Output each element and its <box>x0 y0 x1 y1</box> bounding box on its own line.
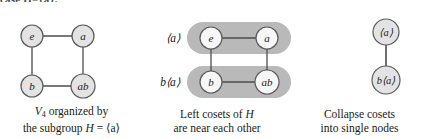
caption-symbol-v: V <box>35 105 42 117</box>
node-ab[interactable]: ab <box>71 74 95 98</box>
node-coset-bH[interactable]: b⟨a⟩ <box>372 66 400 94</box>
node-label-ab: ab <box>78 80 90 92</box>
coset-collapse-figure: case H=⟨a⟩. e a b <box>0 0 428 139</box>
node-label-e: e <box>209 32 214 44</box>
caption-v4-square: V4 organized by the subgroup H = ⟨a⟩ <box>0 105 143 135</box>
caption-symbol-h: H <box>246 108 254 120</box>
node-a[interactable]: a <box>72 25 94 47</box>
caption-symbol-h: H <box>85 122 93 134</box>
caption-line-2: the subgroup H = ⟨a⟩ <box>0 122 143 136</box>
caption-line-1: Left cosets of H <box>143 108 291 122</box>
node-label-coset-H: ⟨a⟩ <box>379 27 392 38</box>
node-label-coset-bH: b⟨a⟩ <box>377 75 396 86</box>
node-label-e: e <box>30 30 35 42</box>
caption-symbol-v-subscript: 4 <box>42 110 46 119</box>
caption-line-2-pre: the subgroup <box>23 122 86 134</box>
node-label-ab: ab <box>262 76 274 88</box>
panel-v4-square: e a b ab V4 organized by the subgroup H … <box>0 0 143 139</box>
coset-label-bH: b⟨a⟩ <box>160 76 181 88</box>
caption-line-1: V4 organized by <box>0 105 143 122</box>
caption-collapsed-quotient: Collapse cosets into single nodes <box>291 108 428 135</box>
caption-line-2-post: = ⟨a⟩ <box>94 122 120 134</box>
node-label-b: b <box>208 76 214 88</box>
node-b[interactable]: b <box>200 71 222 93</box>
panel-collapsed-quotient: ⟨a⟩ b⟨a⟩ Collapse cosets into single nod… <box>291 0 428 139</box>
caption-line-1: Collapse cosets <box>291 108 428 122</box>
cosets-near-diagram: ⟨a⟩ b⟨a⟩ e a b <box>143 8 291 100</box>
v4-square-diagram: e a b ab <box>0 8 143 100</box>
node-label-b: b <box>29 80 35 92</box>
node-b[interactable]: b <box>21 75 43 97</box>
caption-cosets-near: Left cosets of H are near each other <box>143 108 291 135</box>
node-coset-H[interactable]: ⟨a⟩ <box>373 19 399 45</box>
caption-line-1-pre: Left cosets of <box>180 108 245 120</box>
node-ab[interactable]: ab <box>255 70 279 94</box>
coset-label-group: ⟨a⟩ b⟨a⟩ <box>160 32 181 88</box>
node-label-a: a <box>264 32 270 44</box>
caption-line-2: into single nodes <box>291 122 428 136</box>
collapsed-quotient-diagram: ⟨a⟩ b⟨a⟩ <box>291 8 428 100</box>
caption-line-2: are near each other <box>143 122 291 136</box>
coset-label-H: ⟨a⟩ <box>166 32 181 44</box>
node-label-a: a <box>80 30 86 42</box>
node-a[interactable]: a <box>256 27 278 49</box>
node-e[interactable]: e <box>21 25 43 47</box>
node-e[interactable]: e <box>200 27 222 49</box>
panel-cosets-near: ⟨a⟩ b⟨a⟩ e a b <box>143 0 291 139</box>
